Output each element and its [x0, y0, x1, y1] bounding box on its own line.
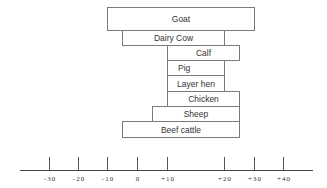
tick-mark [78, 157, 79, 170]
bar-chicken: Chicken [167, 91, 240, 107]
tick-mark [167, 157, 168, 170]
tick-mark [254, 157, 255, 170]
tick-label: +10 [153, 175, 183, 183]
bar-dairy-cow: Dairy Cow [122, 30, 225, 46]
tick-mark [283, 157, 284, 170]
tick-mark [224, 157, 225, 170]
tick-label: +30 [240, 175, 270, 183]
bar-pig: Pig [167, 60, 225, 76]
bar-layer-hen: Layer hen [167, 75, 225, 92]
tick-label: -10 [93, 175, 123, 183]
bar-goat: Goat [107, 7, 255, 31]
axis-line [20, 170, 313, 171]
bar-beef-cattle: Beef cattle [122, 121, 240, 138]
tick-mark [107, 157, 108, 170]
tick-mark [49, 157, 50, 170]
tick-label: -30 [35, 175, 65, 183]
tick-label: +20 [210, 175, 240, 183]
tick-label: -20 [64, 175, 94, 183]
tick-label: 0 [123, 175, 153, 183]
tick-label: +40 [269, 175, 299, 183]
bar-sheep: Sheep [152, 106, 240, 122]
bar-calf: Calf [167, 45, 240, 61]
tick-mark [137, 157, 138, 170]
